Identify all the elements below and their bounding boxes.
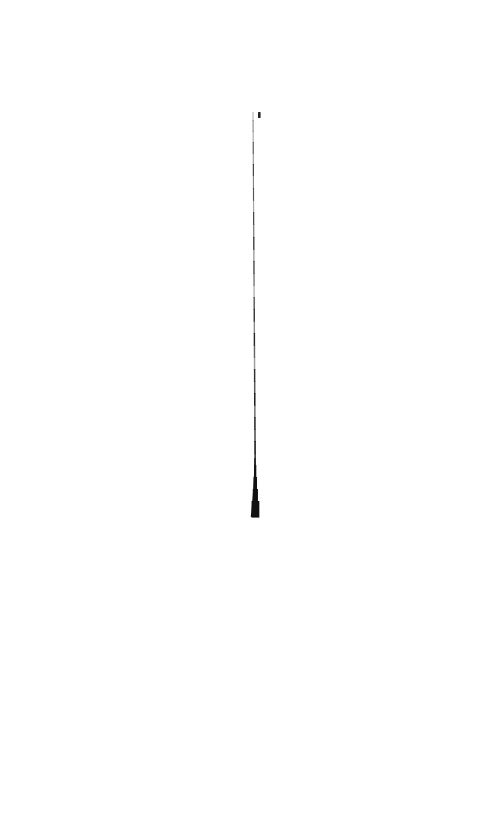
shaft-segment [253, 175, 254, 189]
shaft-segment [254, 297, 255, 310]
shaft-segment [254, 345, 255, 358]
shaft-segment [253, 188, 254, 201]
shaft-segment [254, 441, 256, 454]
shaft-segment [254, 309, 255, 322]
shaft-segment [254, 429, 256, 442]
shaft-segment [253, 120, 254, 132]
background-plate [0, 0, 504, 821]
shaft-segment [254, 417, 256, 430]
shaft-segment [253, 200, 254, 213]
shaft-segment [253, 153, 254, 165]
shaft-segment [253, 224, 254, 238]
shaft-segment [254, 357, 255, 370]
shaft-segment [254, 393, 256, 406]
detached-speck [258, 112, 261, 118]
shaft-segment [253, 249, 254, 262]
image-canvas: Thin dark vertical filament with a taper… [0, 0, 504, 821]
shaft-segment [253, 237, 254, 250]
shaft-segment [253, 212, 254, 225]
shaft-segment [254, 321, 255, 334]
shaft-segment [254, 333, 255, 346]
shaft-segment [253, 142, 254, 154]
specimen-illustration [0, 0, 504, 821]
shaft-segment [253, 131, 254, 143]
shaft-segment [253, 261, 254, 274]
shaft-segment [253, 273, 254, 286]
shaft-segment [253, 285, 254, 298]
shaft-segment [254, 381, 255, 394]
shaft-segment [254, 369, 255, 382]
shaft-segment [254, 405, 256, 418]
shaft-segment [253, 112, 254, 121]
shaft-segment [253, 164, 254, 176]
